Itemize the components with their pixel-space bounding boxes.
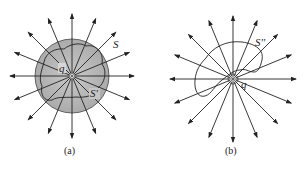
panel-b: q S'' (b) [170, 16, 296, 157]
gauss-law-figure: q S S' (a) q S'' (b) [0, 0, 304, 169]
caption-b: (b) [225, 145, 237, 157]
charge-label-a: q [59, 62, 65, 74]
caption-a: (a) [64, 145, 75, 157]
sphere-label-s-prime: S' [90, 87, 99, 99]
field-line [188, 34, 230, 76]
panel-a: q S S' (a) [10, 14, 134, 157]
charge-label-b: q [241, 78, 247, 90]
surface-label-s-double-prime: S'' [255, 36, 266, 48]
field-line [234, 82, 257, 137]
field-line [175, 80, 230, 103]
field-line [209, 21, 232, 76]
surface-label-s: S [113, 38, 119, 50]
field-line [236, 55, 291, 78]
field-line [175, 55, 230, 78]
field-line [234, 21, 257, 76]
